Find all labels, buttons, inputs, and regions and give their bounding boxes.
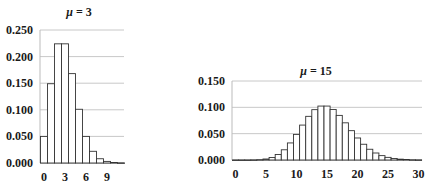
bar [245, 160, 251, 161]
y-tick-label: 0.000 [198, 153, 225, 167]
bar [90, 151, 97, 163]
bar [69, 74, 76, 163]
bar [336, 115, 342, 160]
bar [416, 160, 422, 161]
x-tick-label: 6 [83, 170, 89, 184]
bar [361, 144, 367, 160]
bar [342, 123, 348, 160]
bar [263, 159, 269, 160]
bar [275, 155, 281, 160]
chart-0: 0.0000.0500.1000.1500.2000.2500369μ = 3 [6, 5, 125, 184]
bar [306, 116, 312, 160]
bar [355, 138, 361, 160]
bar [48, 84, 55, 163]
y-tick-label: 0.250 [6, 23, 33, 37]
bar [287, 143, 293, 160]
bar [269, 157, 275, 160]
x-tick-label: 20 [352, 167, 364, 181]
bar [239, 160, 245, 161]
bar [257, 160, 263, 161]
bar [233, 160, 239, 161]
bar [391, 158, 397, 160]
y-tick-label: 0.150 [6, 76, 33, 90]
bar [403, 160, 409, 161]
bar [318, 106, 324, 160]
x-tick-label: 3 [62, 170, 68, 184]
bar [55, 44, 62, 163]
bar [104, 161, 111, 163]
chart-title: μ = 15 [299, 64, 332, 78]
bar [97, 159, 104, 163]
bar [367, 149, 373, 160]
x-tick-label: 5 [263, 167, 269, 181]
y-tick-label: 0.100 [198, 100, 225, 114]
bar [118, 163, 125, 164]
x-tick-label: 0 [233, 167, 239, 181]
y-tick-label: 0.100 [6, 103, 33, 117]
y-tick-label: 0.200 [6, 50, 33, 64]
x-tick-label: 9 [104, 170, 110, 184]
x-tick-label: 30 [413, 167, 425, 181]
bar [111, 162, 118, 163]
bar [379, 156, 385, 160]
bar [312, 110, 318, 160]
bar [294, 134, 300, 160]
x-tick-label: 25 [382, 167, 394, 181]
y-tick-label: 0.000 [6, 156, 33, 170]
x-tick-label: 15 [321, 167, 333, 181]
bar [281, 150, 287, 160]
bar [409, 160, 415, 161]
bar [324, 106, 330, 160]
x-tick-label: 0 [41, 170, 47, 184]
chart-title: μ = 3 [65, 5, 92, 19]
bar [348, 131, 354, 160]
x-tick-label: 10 [291, 167, 303, 181]
bar [300, 125, 306, 160]
y-tick-label: 0.050 [198, 127, 225, 141]
bar [62, 44, 69, 163]
chart-1: 0.0000.0500.1000.150051015202530μ = 15 [198, 64, 425, 181]
bar [330, 109, 336, 160]
bar [76, 109, 83, 163]
bar [41, 136, 48, 163]
bar [373, 153, 379, 160]
bar [83, 136, 90, 163]
bar [385, 157, 391, 160]
y-tick-label: 0.150 [198, 74, 225, 88]
bar [397, 159, 403, 160]
poisson-charts: 0.0000.0500.1000.1500.2000.2500369μ = 30… [0, 0, 429, 186]
y-tick-label: 0.050 [6, 129, 33, 143]
bar [251, 160, 257, 161]
